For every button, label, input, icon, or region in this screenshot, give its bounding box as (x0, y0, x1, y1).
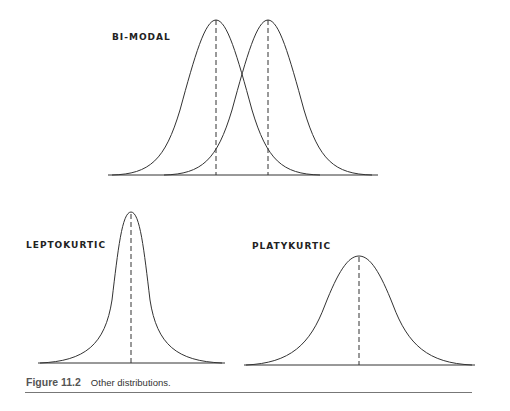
platykurtic-label: PLATYKURTIC (252, 241, 331, 251)
leptokurtic-label: LEPTOKURTIC (26, 240, 106, 250)
figure-caption: Figure 11.2Other distributions. (26, 376, 171, 388)
figure-number: Figure 11.2 (26, 376, 81, 388)
distributions-diagram (0, 0, 510, 411)
figure-caption-text: Other distributions. (91, 377, 171, 388)
caption-rule (25, 392, 472, 393)
bimodal-label: BI-MODAL (112, 32, 171, 42)
